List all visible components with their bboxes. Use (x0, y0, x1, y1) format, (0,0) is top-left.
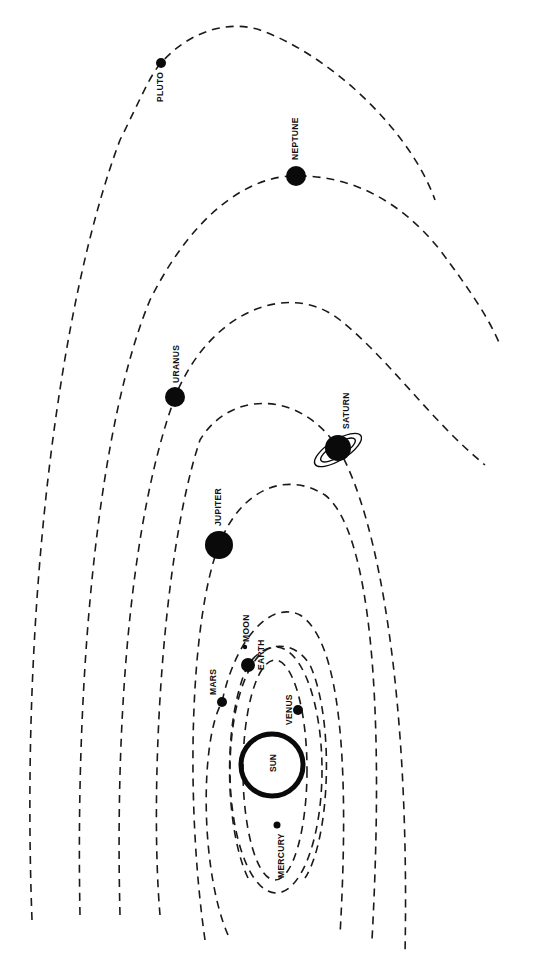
jupiter-label: JUPITER (213, 488, 223, 526)
planet-pluto: PLUTO (155, 58, 166, 102)
sun: SUN (241, 734, 303, 796)
mercury-icon (274, 822, 281, 829)
orbit-mars (206, 612, 343, 935)
jupiter-icon (205, 531, 233, 559)
orbit-pluto (30, 26, 435, 920)
orbits (30, 26, 500, 955)
planet-saturn: SATURN (310, 392, 366, 472)
saturn-label: SATURN (341, 392, 351, 429)
planet-neptune: NEPTUNE (286, 117, 306, 186)
solar-system-diagram: SUN MERCURY VENUS EARTH MOON MARS JUPITE… (0, 0, 533, 971)
uranus-label: URANUS (171, 345, 181, 383)
planet-uranus: URANUS (165, 345, 185, 407)
saturn-icon (325, 435, 351, 461)
venus-icon (293, 705, 303, 715)
moon-label: MOON (241, 614, 251, 642)
mars-label: MARS (208, 669, 218, 695)
mercury-label: MERCURY (276, 833, 286, 878)
orbit-neptune (79, 176, 500, 915)
neptune-icon (286, 166, 306, 186)
pluto-label: PLUTO (155, 72, 165, 102)
sun-label: SUN (268, 754, 278, 772)
planet-mars: MARS (208, 669, 227, 707)
pluto-icon (156, 58, 166, 68)
uranus-icon (165, 387, 185, 407)
earth-label: EARTH (256, 639, 266, 670)
neptune-label: NEPTUNE (290, 117, 300, 160)
earth-icon (241, 658, 255, 672)
venus-label: VENUS (284, 694, 294, 725)
moon-icon (243, 645, 247, 649)
mars-icon (217, 697, 227, 707)
planet-mercury: MERCURY (274, 822, 287, 879)
moon: MOON (241, 614, 251, 649)
